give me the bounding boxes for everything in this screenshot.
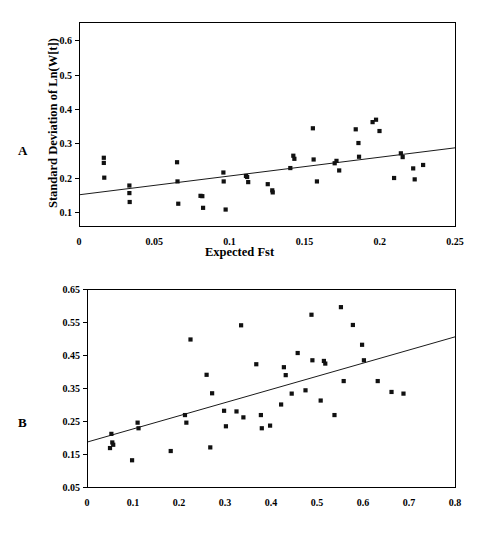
data-point xyxy=(136,421,140,425)
x-tick-label: 0.7 xyxy=(403,497,416,508)
data-point xyxy=(266,182,270,186)
data-point xyxy=(284,373,288,377)
plot-frame xyxy=(87,289,455,487)
data-point xyxy=(102,161,106,165)
data-point xyxy=(377,129,381,133)
y-tick-label: 0.45 xyxy=(63,350,81,361)
data-point xyxy=(311,126,315,130)
data-point xyxy=(374,118,378,122)
data-point xyxy=(268,424,272,428)
data-point xyxy=(290,392,294,396)
data-point xyxy=(205,373,209,377)
data-point xyxy=(222,409,226,413)
y-tick-label: 0.55 xyxy=(63,317,81,328)
panel-a: A Standard Deviation of Ln(W[t]) Expecte… xyxy=(0,0,479,267)
data-point xyxy=(413,177,417,181)
data-point xyxy=(271,190,275,194)
data-point xyxy=(259,413,263,417)
x-tick-label: 0.1 xyxy=(223,236,236,247)
x-tick-label: 0.2 xyxy=(374,236,387,247)
data-point xyxy=(339,305,343,309)
data-point xyxy=(260,426,264,430)
y-tick-label: 0.3 xyxy=(60,138,73,149)
data-point xyxy=(310,358,314,362)
x-tick-label: 0.2 xyxy=(173,497,186,508)
data-point xyxy=(334,159,338,163)
data-point xyxy=(323,361,327,365)
data-point xyxy=(184,421,188,425)
x-tick-label: 0.1 xyxy=(127,497,140,508)
data-point xyxy=(130,458,134,462)
figure-container: A Standard Deviation of Ln(W[t]) Expecte… xyxy=(0,0,479,534)
data-point xyxy=(128,200,132,204)
x-tick-label: 0.15 xyxy=(296,236,314,247)
data-point xyxy=(421,163,425,167)
data-point xyxy=(376,379,380,383)
data-point xyxy=(224,424,228,428)
data-point xyxy=(127,183,131,187)
data-point xyxy=(357,155,361,159)
data-point xyxy=(224,207,228,211)
x-tick-label: 0.05 xyxy=(145,236,163,247)
x-tick-label: 0 xyxy=(85,497,90,508)
data-point xyxy=(351,323,355,327)
panel-b: B Standard Deviation of Ln(W[t]) Expecte… xyxy=(0,267,479,534)
data-point xyxy=(188,337,192,341)
y-tick-label: 0.15 xyxy=(63,449,81,460)
x-tick-label: 0.8 xyxy=(449,497,462,508)
data-point xyxy=(401,155,405,159)
data-point xyxy=(288,166,292,170)
data-point xyxy=(200,194,204,198)
data-point xyxy=(136,426,140,430)
y-tick-label: 0.5 xyxy=(60,70,73,81)
data-point xyxy=(362,358,366,362)
x-tick-label: 0.3 xyxy=(219,497,232,508)
data-point xyxy=(102,156,106,160)
x-tick-label: 0 xyxy=(77,236,82,247)
data-point xyxy=(208,445,212,449)
data-point xyxy=(279,402,283,406)
data-point xyxy=(241,415,245,419)
y-tick-label: 0.2 xyxy=(60,173,73,184)
data-point xyxy=(201,206,205,210)
x-tick-label: 0.5 xyxy=(311,497,324,508)
data-point xyxy=(356,141,360,145)
data-point xyxy=(332,413,336,417)
data-point xyxy=(183,413,187,417)
x-tick-label: 0.6 xyxy=(357,497,370,508)
data-point xyxy=(282,365,286,369)
data-point xyxy=(234,409,238,413)
data-point xyxy=(319,398,323,402)
plot-frame xyxy=(79,22,455,226)
data-point xyxy=(222,179,226,183)
data-point xyxy=(399,151,403,155)
data-point xyxy=(254,362,258,366)
data-point xyxy=(354,127,358,131)
data-point xyxy=(312,157,316,161)
y-tick-label: 0.6 xyxy=(60,35,73,46)
data-point xyxy=(296,351,300,355)
y-tick-label: 0.35 xyxy=(63,383,81,394)
data-point xyxy=(389,390,393,394)
y-tick-label: 0.25 xyxy=(63,416,81,427)
panel-a-plot: 0.10.20.30.40.50.600.050.10.150.20.25 xyxy=(0,0,479,267)
y-tick-label: 0.65 xyxy=(63,284,81,295)
data-point xyxy=(239,323,243,327)
data-point xyxy=(176,202,180,206)
data-point xyxy=(360,343,364,347)
data-point xyxy=(292,157,296,161)
y-tick-label: 0.4 xyxy=(60,104,73,115)
data-point xyxy=(175,160,179,164)
data-point xyxy=(245,175,249,179)
data-point xyxy=(401,392,405,396)
data-point xyxy=(169,449,173,453)
data-point xyxy=(342,379,346,383)
data-point xyxy=(392,176,396,180)
data-point xyxy=(315,179,319,183)
data-point xyxy=(303,388,307,392)
y-tick-label: 0.1 xyxy=(60,207,73,218)
data-point xyxy=(221,170,225,174)
data-point xyxy=(127,191,131,195)
data-point xyxy=(309,313,313,317)
data-point xyxy=(109,432,113,436)
